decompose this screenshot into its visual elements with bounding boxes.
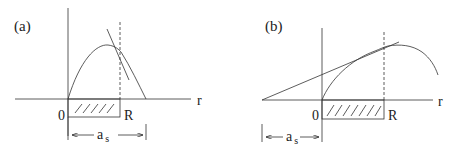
diagram-canvas: (a) r 0 R as — [0, 0, 461, 154]
curve-a — [68, 45, 146, 99]
curve-b — [322, 45, 438, 100]
hatch-lines-b — [327, 105, 381, 116]
origin-label-a: 0 — [58, 108, 65, 123]
panel-label-b: (b) — [265, 18, 283, 35]
hatch-lines-a — [75, 104, 114, 113]
panel-a — [15, 8, 191, 140]
tangent-line-a — [107, 29, 129, 80]
boundary-label-a: R — [124, 108, 134, 123]
tangent-line-b — [262, 42, 399, 100]
origin-label-b: 0 — [312, 108, 319, 123]
panel-b — [262, 28, 438, 142]
boundary-label-b: R — [388, 108, 398, 123]
panel-label-a: (a) — [14, 18, 31, 35]
diagram-svg: (a) r 0 R as — [0, 0, 461, 154]
hatched-region-a — [68, 99, 120, 117]
span-label-a: as — [97, 127, 109, 144]
axis-label-r-b: r — [438, 94, 443, 109]
span-label-b: as — [286, 129, 298, 146]
axis-label-r-a: r — [197, 93, 202, 108]
